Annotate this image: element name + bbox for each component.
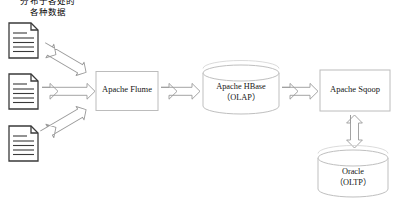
caption-line-2: 各种数据 — [2, 7, 94, 18]
diagram-canvas: 分布于各处的 各种数据 Apache Flume Apache HBase （O… — [0, 0, 400, 201]
document-icon-3 — [9, 126, 38, 161]
connector-sqoop-to-oracle — [347, 115, 363, 148]
node-oracle — [318, 146, 388, 198]
connector-flume-to-hbase — [161, 83, 200, 99]
diagram-vector-layer — [0, 0, 400, 201]
connector-hbase-to-sqoop — [282, 83, 318, 99]
node-hbase — [203, 61, 279, 115]
diagram-caption: 分布于各处的 各种数据 — [2, 0, 94, 18]
document-icon-1 — [9, 23, 38, 58]
node-flume — [96, 72, 158, 111]
connector-doc3-to-flume — [39, 103, 90, 142]
node-sqoop — [320, 70, 390, 111]
connector-doc1-to-flume — [39, 40, 90, 79]
caption-line-1: 分布于各处的 — [2, 0, 94, 7]
connector-doc2-to-flume — [42, 83, 95, 99]
document-icon-2 — [9, 74, 38, 109]
